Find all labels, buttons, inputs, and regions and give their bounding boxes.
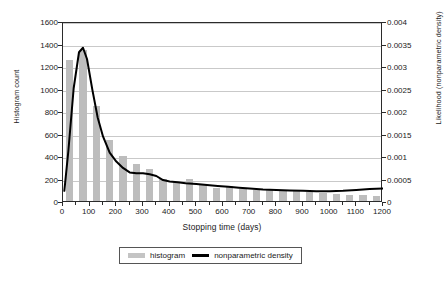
chart-legend: histogram nonparametric density (119, 247, 302, 264)
legend-label-histogram: histogram (150, 251, 185, 260)
density-curve (63, 23, 383, 203)
x-axis-title: Stopping time (days) (62, 222, 382, 232)
y-axis-right-tick-label: 0 (387, 198, 427, 207)
y-axis-right-tick-label: 0.003 (387, 63, 427, 72)
legend-item-density: nonparametric density (192, 251, 293, 260)
y-axis-left-tick-label: 200 (0, 175, 58, 184)
density-line-swatch-icon (192, 254, 209, 257)
y-axis-right-tick-label: 0.0035 (387, 40, 427, 49)
y-axis-right-title: Likelihood (nonparametric density) (434, 15, 443, 125)
y-axis-left-tick-label: 0 (0, 198, 58, 207)
y-axis-right-tick-label: 0.004 (387, 18, 427, 27)
y-axis-right-tick-label: 0.0025 (387, 85, 427, 94)
y-axis-left-tick-label: 1400 (0, 40, 58, 49)
y-axis-left-tick-label: 600 (0, 130, 58, 139)
y-axis-right-tick-label: 0.001 (387, 153, 427, 162)
y-axis-left-tick-label: 800 (0, 108, 58, 117)
plot-area (62, 22, 382, 202)
y-axis-right-tick-label: 0.002 (387, 108, 427, 117)
y-axis-right-tick-label: 0.0005 (387, 175, 427, 184)
y-axis-left-tick-label: 1000 (0, 85, 58, 94)
y-axis-left-tick-label: 1200 (0, 63, 58, 72)
y-axis-left-tick-label: 1600 (0, 18, 58, 27)
y-axis-left-tick-label: 400 (0, 153, 58, 162)
y-axis-right-tick-label: 0.0015 (387, 130, 427, 139)
legend-item-histogram: histogram (128, 251, 185, 260)
chart-figure: Histogram count Likelihood (nonparametri… (0, 0, 445, 281)
legend-label-density: nonparametric density (214, 251, 293, 260)
histogram-swatch-icon (128, 253, 145, 258)
x-axis-tick-label: 1200 (362, 207, 402, 216)
